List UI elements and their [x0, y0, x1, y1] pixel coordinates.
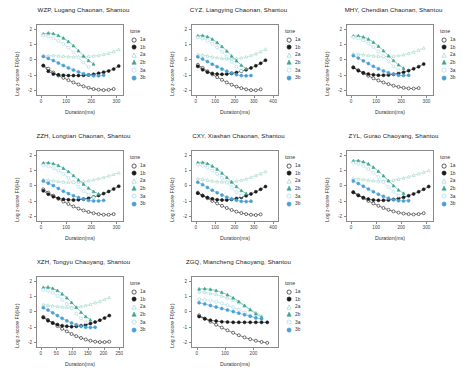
x-tick-mark	[401, 222, 402, 224]
y-tick-mark	[189, 29, 191, 30]
y-tick-label: 1	[24, 293, 32, 298]
open-triangle-icon	[285, 52, 294, 58]
legend-item-3b[interactable]: 3b	[285, 74, 300, 82]
legend-item-1a[interactable]: 1a	[285, 162, 300, 170]
legend-item-3b[interactable]: 3b	[440, 74, 455, 82]
y-axis-label: Log z-score F0(Hz)	[169, 52, 175, 96]
legend-item-2a[interactable]: 2a	[130, 51, 145, 59]
legend-item-2b[interactable]: 2b	[285, 185, 300, 193]
legend-item-3a[interactable]: 3a	[440, 66, 455, 74]
open-circle-icon	[285, 163, 294, 169]
legend-title: tone	[130, 28, 145, 34]
legend-item-2a[interactable]: 2a	[285, 177, 300, 185]
y-tick-mark	[344, 90, 346, 91]
y-tick-mark	[189, 201, 191, 202]
y-axis-label: Log z-score F0(Hz)	[169, 178, 175, 222]
legend-item-2a[interactable]: 2a	[440, 51, 455, 59]
x-tick-label: 150	[84, 351, 92, 356]
legend-item-1a[interactable]: 1a	[440, 36, 455, 44]
x-axis-label: Duration(ms)	[36, 235, 124, 241]
legend-item-3b[interactable]: 3b	[130, 74, 145, 82]
legend-item-3b[interactable]: 3b	[285, 200, 300, 208]
legend-item-3b[interactable]: 3b	[130, 326, 145, 334]
legend-item-2b[interactable]: 2b	[130, 59, 145, 67]
legend-item-1a[interactable]: 1a	[285, 288, 300, 296]
legend-item-3a[interactable]: 3a	[285, 318, 300, 326]
y-tick-label: 2	[334, 26, 342, 31]
legend-item-3a[interactable]: 3a	[130, 318, 145, 326]
filled-circle-icon	[130, 296, 139, 302]
open-circle-icon	[130, 67, 139, 73]
legend-item-2a[interactable]: 2a	[285, 303, 300, 311]
legend-item-1a[interactable]: 1a	[130, 162, 145, 170]
legend-item-2b[interactable]: 2b	[130, 311, 145, 319]
legend-item-label: 3b	[295, 327, 300, 332]
legend: tone1a1b2a2b3a3b	[130, 154, 145, 208]
legend-item-label: 1b	[140, 45, 145, 50]
x-tick-label: 0	[195, 225, 198, 230]
legend-item-2b[interactable]: 2b	[285, 59, 300, 67]
open-circle-icon	[130, 193, 139, 199]
legend-item-1b[interactable]: 1b	[285, 296, 300, 304]
legend-item-3a[interactable]: 3a	[130, 192, 145, 200]
legend-title: tone	[130, 154, 145, 160]
x-tick-label: 0	[40, 99, 43, 104]
legend-item-1a[interactable]: 1a	[130, 36, 145, 44]
legend-item-label: 3a	[295, 68, 300, 73]
chart-title: CXY, Xiashan Chaonan, Shantou	[161, 132, 316, 139]
legend-item-2b[interactable]: 2b	[440, 59, 455, 67]
y-tick-label: 0	[179, 183, 187, 188]
legend-item-1b[interactable]: 1b	[130, 170, 145, 178]
y-tick-mark	[344, 185, 346, 186]
chart-title: CYZ, Liangying Chaonan, Shantou	[161, 6, 316, 13]
x-tick-label: 200	[87, 99, 95, 104]
legend-item-1a[interactable]: 1a	[130, 288, 145, 296]
legend-item-label: 1b	[140, 171, 145, 176]
legend-item-2a[interactable]: 2a	[440, 177, 455, 185]
legend-item-1b[interactable]: 1b	[440, 44, 455, 52]
legend-item-3a[interactable]: 3a	[440, 192, 455, 200]
legend-item-1b[interactable]: 1b	[130, 296, 145, 304]
open-triangle-icon	[440, 178, 449, 184]
legend-item-2a[interactable]: 2a	[130, 303, 145, 311]
y-tick-label: -1	[179, 72, 187, 77]
y-tick-mark	[189, 311, 191, 312]
x-tick-mark	[235, 96, 236, 98]
legend-item-2a[interactable]: 2a	[130, 177, 145, 185]
y-tick-label: 1	[179, 167, 187, 172]
legend-item-3a[interactable]: 3a	[285, 192, 300, 200]
y-axis-label: Log z-score F0(Hz)	[324, 178, 330, 222]
y-tick-label: -1	[334, 198, 342, 203]
y-tick-mark	[189, 296, 191, 297]
legend-item-label: 1a	[140, 289, 145, 294]
x-axis-label: Duration(ms)	[191, 235, 279, 241]
legend-item-2b[interactable]: 2b	[130, 185, 145, 193]
x-tick-label: 200	[397, 225, 405, 230]
legend-item-1b[interactable]: 1b	[285, 44, 300, 52]
x-tick-mark	[273, 222, 274, 224]
legend-item-2b[interactable]: 2b	[285, 311, 300, 319]
x-tick-label: 100	[211, 99, 219, 104]
y-tick-label: -2	[334, 213, 342, 218]
x-axis-label: Duration(ms)	[191, 109, 279, 115]
legend-item-3a[interactable]: 3a	[130, 66, 145, 74]
legend: tone1a1b2a2b3a3b	[130, 280, 145, 334]
filled-triangle-icon	[130, 185, 139, 191]
legend-item-1b[interactable]: 1b	[130, 44, 145, 52]
legend-item-1a[interactable]: 1a	[440, 162, 455, 170]
legend-item-label: 1b	[295, 171, 300, 176]
x-tick-label: 100	[62, 99, 70, 104]
legend-item-label: 3b	[140, 75, 145, 80]
legend-item-1b[interactable]: 1b	[440, 170, 455, 178]
legend-item-3b[interactable]: 3b	[285, 326, 300, 334]
legend-item-label: 2b	[295, 312, 300, 317]
x-axis-label: Duration(ms)	[36, 109, 124, 115]
legend-item-3b[interactable]: 3b	[130, 200, 145, 208]
y-tick-mark	[34, 216, 36, 217]
legend-item-2a[interactable]: 2a	[285, 51, 300, 59]
legend-item-1a[interactable]: 1a	[285, 36, 300, 44]
legend-item-1b[interactable]: 1b	[285, 170, 300, 178]
legend-item-2b[interactable]: 2b	[440, 185, 455, 193]
legend-item-3a[interactable]: 3a	[285, 66, 300, 74]
legend-item-3b[interactable]: 3b	[440, 200, 455, 208]
